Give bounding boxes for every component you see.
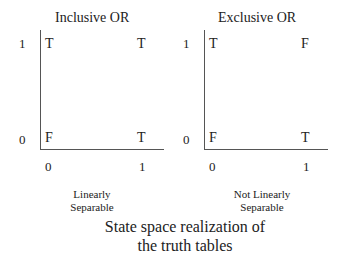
- caption-line: State space realization of: [60, 217, 310, 236]
- separability-note: Linearly Separable: [62, 188, 122, 214]
- panel-title: Inclusive OR: [55, 10, 129, 26]
- cell-bottom-right: T: [301, 130, 310, 146]
- y-tick-0: 0: [183, 132, 190, 148]
- x-tick-1: 1: [303, 159, 310, 175]
- cell-top-right: T: [137, 36, 146, 52]
- x-tick-0: 0: [209, 159, 216, 175]
- note-line: Linearly: [62, 188, 122, 201]
- x-axis: [204, 149, 328, 150]
- note-line: Not Linearly: [222, 188, 302, 201]
- panel-title: Exclusive OR: [218, 10, 296, 26]
- figure-caption: State space realization of the truth tab…: [60, 217, 310, 255]
- note-line: Separable: [222, 201, 302, 214]
- cell-top-left: T: [209, 36, 218, 52]
- y-tick-0: 0: [19, 132, 26, 148]
- separability-note: Not Linearly Separable: [222, 188, 302, 214]
- cell-top-right: F: [301, 36, 309, 52]
- y-tick-1: 1: [19, 36, 26, 52]
- note-line: Separable: [62, 201, 122, 214]
- x-axis: [40, 149, 164, 150]
- y-axis: [40, 30, 41, 150]
- y-tick-1: 1: [183, 36, 190, 52]
- cell-bottom-left: F: [209, 130, 217, 146]
- x-tick-1: 1: [139, 159, 146, 175]
- caption-line: the truth tables: [60, 236, 310, 255]
- cell-bottom-left: F: [45, 130, 53, 146]
- y-axis: [204, 30, 205, 150]
- cell-bottom-right: T: [137, 130, 146, 146]
- cell-top-left: T: [45, 36, 54, 52]
- x-tick-0: 0: [45, 159, 52, 175]
